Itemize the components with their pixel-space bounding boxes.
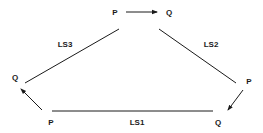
triangle-diagram bbox=[0, 0, 263, 133]
node-right-p: P bbox=[246, 77, 251, 86]
left-arrow bbox=[21, 89, 42, 110]
right-arrow bbox=[228, 90, 243, 110]
node-bottom-left-p: P bbox=[48, 118, 53, 127]
ls3-line bbox=[25, 29, 119, 83]
edge-label-ls1: LS1 bbox=[130, 118, 145, 127]
node-left-q: Q bbox=[12, 73, 18, 82]
ls2-line bbox=[159, 29, 236, 83]
node-bottom-right-q: Q bbox=[215, 118, 221, 127]
edge-label-ls3: LS3 bbox=[58, 40, 73, 49]
edge-label-ls2: LS2 bbox=[204, 40, 219, 49]
node-top-p: P bbox=[112, 8, 117, 17]
node-top-q: Q bbox=[166, 8, 172, 17]
